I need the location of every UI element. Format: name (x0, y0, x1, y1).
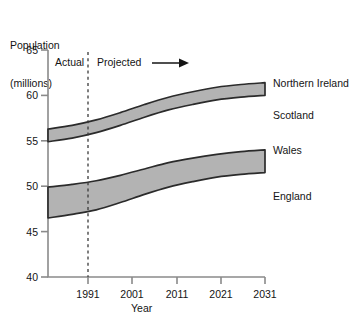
upper-population-band (48, 83, 265, 142)
series-label-scotland: Scotland (273, 109, 314, 121)
projected-arrow-icon (152, 59, 189, 68)
x-tick-label-2031: 2031 (245, 288, 285, 300)
y-tick-label-45: 45 (12, 226, 38, 238)
actual-label: Actual (55, 56, 84, 68)
x-axis-title: Year (131, 302, 152, 315)
x-tick-label-2011: 2011 (157, 288, 197, 300)
y-tick-label-60: 60 (12, 89, 38, 101)
y-tick-label-40: 40 (12, 271, 38, 283)
y-tick-label-50: 50 (12, 180, 38, 192)
x-tick-label-1991: 1991 (68, 288, 108, 300)
projected-label: Projected (97, 56, 141, 68)
x-axis-ticks (88, 277, 265, 284)
series-label-england: England (273, 190, 312, 202)
lower-population-band (48, 150, 265, 218)
series-label-wales: Wales (273, 144, 302, 156)
y-tick-label-65: 65 (12, 44, 38, 56)
x-tick-label-2021: 2021 (201, 288, 241, 300)
y-tick-label-55: 55 (12, 135, 38, 147)
population-projection-chart: Population (millions) (0, 0, 357, 325)
chart-canvas (0, 0, 357, 325)
series-label-northern-ireland: Northern Ireland (273, 77, 349, 89)
y-axis-ticks (41, 50, 48, 277)
x-tick-label-2001: 2001 (112, 288, 152, 300)
